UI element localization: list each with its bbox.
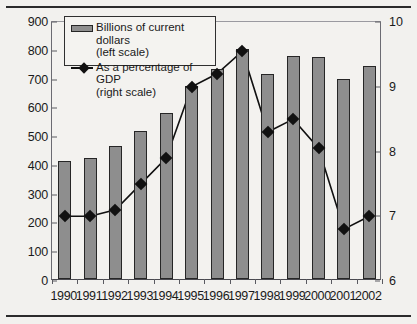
x-axis-label-1990: 1990 <box>50 289 77 303</box>
y-axis-left-tick-label: 300 <box>28 188 52 202</box>
x-axis-tick <box>204 279 205 284</box>
bar-1993 <box>134 131 147 279</box>
bar-1995 <box>185 86 198 279</box>
x-axis-tick <box>357 279 358 284</box>
x-axis-tick <box>230 279 231 284</box>
y-axis-right-tick-label: 8 <box>380 145 396 159</box>
x-axis-label-1991: 1991 <box>76 289 103 303</box>
x-axis-tick <box>52 279 53 284</box>
y-axis-right-tick-mark <box>375 22 380 23</box>
x-axis-tick <box>77 279 78 284</box>
bar-swatch-icon <box>71 22 93 34</box>
y-axis-left-tick-mark <box>52 223 57 224</box>
y-axis-right-tick: 9 <box>380 80 396 94</box>
x-axis-label-1995: 1995 <box>177 289 204 303</box>
y-axis-left-tick-label: 500 <box>28 130 52 144</box>
y-axis-left-tick-mark <box>52 108 57 109</box>
bar-1998 <box>261 74 274 279</box>
x-axis-label-2002: 2002 <box>355 289 382 303</box>
y-axis-right-tick: 10 <box>380 15 403 29</box>
x-axis-label-1996: 1996 <box>203 289 230 303</box>
x-axis-label-1997: 1997 <box>228 289 255 303</box>
x-axis-tick <box>103 279 104 284</box>
bar-2001 <box>337 79 350 279</box>
top-divider-rule <box>6 6 411 8</box>
chart-legend: Billions of current dollars (left scale)… <box>64 16 216 66</box>
x-axis-tick <box>331 279 332 284</box>
bar-2002 <box>363 66 376 279</box>
x-axis-label-1994: 1994 <box>152 289 179 303</box>
y-axis-left-tick: 0 <box>41 274 52 288</box>
y-axis-left-tick-label: 600 <box>28 101 52 115</box>
legend-entry-bars: Billions of current dollars <box>71 21 210 46</box>
y-axis-right-tick-label: 10 <box>380 15 403 29</box>
bar-2000 <box>312 57 325 279</box>
x-axis-tick <box>128 279 129 284</box>
y-axis-right-tick: 8 <box>380 145 396 159</box>
y-axis-left-tick: 900 <box>28 15 52 29</box>
y-axis-left-tick-label: 900 <box>28 15 52 29</box>
x-axis-label-1993: 1993 <box>127 289 154 303</box>
y-axis-right-tick-label: 9 <box>380 80 396 94</box>
y-axis-left-tick-label: 400 <box>28 159 52 173</box>
x-axis-tick <box>306 279 307 284</box>
y-axis-left-tick-label: 100 <box>28 245 52 259</box>
x-axis-label-1999: 1999 <box>279 289 306 303</box>
y-axis-left-tick: 800 <box>28 44 52 58</box>
y-axis-left-tick: 700 <box>28 73 52 87</box>
chart-figure: 0100200300400500600700800900678910 Billi… <box>0 0 417 324</box>
x-axis-tick <box>255 279 256 284</box>
x-axis-label-2000: 2000 <box>304 289 331 303</box>
y-axis-left-tick-mark <box>52 194 57 195</box>
x-axis-label-1998: 1998 <box>253 289 280 303</box>
y-axis-left-tick: 100 <box>28 245 52 259</box>
y-axis-left-tick-label: 800 <box>28 44 52 58</box>
bar-1994 <box>160 113 173 279</box>
x-axis-label-1992: 1992 <box>101 289 128 303</box>
y-axis-left-tick-mark <box>52 165 57 166</box>
y-axis-left-tick: 300 <box>28 188 52 202</box>
y-axis-right-tick: 7 <box>380 209 396 223</box>
bar-1999 <box>287 56 300 279</box>
bar-1996 <box>211 69 224 279</box>
y-axis-left-tick: 600 <box>28 101 52 115</box>
legend-label-line: As a percentage of GDP <box>96 61 210 86</box>
y-axis-left-tick-mark <box>52 252 57 253</box>
bar-1997 <box>236 49 249 279</box>
bottom-divider-rule <box>6 315 411 317</box>
y-axis-left-tick-mark <box>52 50 57 51</box>
y-axis-left-tick: 400 <box>28 159 52 173</box>
y-axis-left-tick: 500 <box>28 130 52 144</box>
y-axis-left-tick-mark <box>52 22 57 23</box>
line-marker-icon <box>71 62 93 74</box>
x-axis-label-2001: 2001 <box>330 289 357 303</box>
y-axis-left-tick-label: 200 <box>28 216 52 230</box>
y-axis-left-tick-label: 0 <box>41 274 52 288</box>
y-axis-left-tick-mark <box>52 137 57 138</box>
x-axis-tick <box>179 279 180 284</box>
legend-sublabel-bars: (left scale) <box>71 46 210 59</box>
legend-sublabel-line: (right scale) <box>71 86 210 99</box>
y-axis-left-tick: 200 <box>28 216 52 230</box>
y-axis-left-tick-label: 700 <box>28 73 52 87</box>
x-axis-tick <box>382 279 383 284</box>
x-axis-tick <box>280 279 281 284</box>
y-axis-right-tick-label: 7 <box>380 209 396 223</box>
legend-entry-line: As a percentage of GDP <box>71 61 210 86</box>
y-axis-right-tick-mark <box>375 281 380 282</box>
y-axis-left-tick-mark <box>52 79 57 80</box>
legend-label-bars: Billions of current dollars <box>96 21 210 46</box>
x-axis-tick <box>154 279 155 284</box>
